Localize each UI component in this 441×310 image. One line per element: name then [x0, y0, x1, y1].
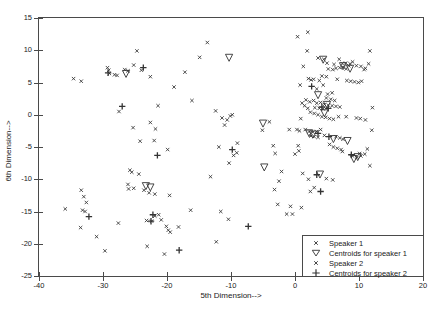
- speaker-point-marker: [297, 149, 300, 152]
- x-axis-tick-label: -40: [34, 282, 45, 290]
- x-axis-tick-label: 0: [293, 282, 297, 290]
- speaker-point-marker: [280, 170, 283, 173]
- speaker-point-marker: [304, 98, 307, 101]
- centroid-plus-marker: [308, 83, 314, 89]
- centroid-plus-marker: [119, 103, 125, 109]
- legend-item: Centroids for speaker 2: [303, 269, 423, 279]
- centroid-triangle-marker: [259, 120, 266, 127]
- speaker-point-marker: [362, 68, 365, 71]
- series-group: [64, 41, 316, 256]
- speaker-point-marker: [360, 80, 363, 83]
- speaker-point-marker: [80, 80, 83, 83]
- speaker-point-marker: [334, 105, 337, 108]
- y-axis-tick-label: -20: [21, 240, 32, 248]
- speaker-point-marker: [227, 218, 230, 221]
- y-axis-tick: [39, 212, 43, 213]
- speaker-point-marker: [214, 109, 217, 112]
- speaker-point-marker: [297, 144, 300, 147]
- speaker-point-marker: [219, 210, 222, 213]
- speaker-point-marker: [325, 177, 328, 180]
- speaker-point-marker: [272, 144, 275, 147]
- speaker-point-marker: [336, 78, 339, 81]
- speaker-point-marker: [332, 145, 335, 148]
- speaker-point-marker: [132, 187, 135, 190]
- speaker-point-marker: [366, 147, 369, 150]
- speaker-point-marker: [355, 116, 358, 119]
- speaker-point-marker: [315, 101, 318, 104]
- centroid-triangle-marker: [344, 137, 351, 144]
- x-axis-tick-label: 20: [419, 282, 427, 290]
- speaker-point-marker: [273, 188, 276, 191]
- speaker-point-marker: [313, 106, 316, 109]
- speaker-point-marker: [355, 64, 358, 67]
- centroid-triangle-marker: [225, 54, 232, 61]
- x-axis-label: 5th Dimension-->: [38, 292, 424, 300]
- series-group: [86, 64, 355, 253]
- y-axis-tick: [39, 179, 43, 180]
- speaker-point-marker: [209, 175, 212, 178]
- speaker-point-marker: [312, 78, 315, 81]
- speaker-point-marker: [117, 221, 120, 224]
- speaker-point-marker: [64, 207, 67, 210]
- legend-marker-triangle-down-icon: [303, 249, 329, 259]
- speaker-point-marker: [190, 99, 193, 102]
- centroid-plus-marker: [245, 223, 251, 229]
- legend-marker-x-small-icon: [303, 259, 329, 269]
- speaker-point-marker: [198, 56, 201, 59]
- speaker-point-marker: [336, 147, 339, 150]
- speaker-point-marker: [315, 87, 318, 90]
- speaker-point-marker: [337, 58, 340, 61]
- speaker-point-marker: [276, 203, 279, 206]
- speaker-point-marker: [225, 118, 228, 121]
- legend-marker-x-small-icon: [303, 239, 329, 249]
- speaker-point-marker: [364, 118, 367, 121]
- series-group: [305, 56, 361, 178]
- speaker-point-marker: [288, 128, 291, 131]
- x-axis-tick: [167, 272, 168, 276]
- centroid-triangle-marker: [346, 65, 353, 72]
- y-axis-tick: [39, 83, 43, 84]
- speaker-point-marker: [293, 152, 296, 155]
- speaker-point-marker: [368, 164, 371, 167]
- speaker-point-marker: [157, 213, 160, 216]
- speaker-point-marker: [313, 112, 316, 115]
- speaker-point-marker: [80, 189, 83, 192]
- speaker-point-marker: [137, 172, 140, 175]
- speaker-point-marker: [325, 75, 328, 78]
- x-axis-tick-label: 10: [355, 282, 363, 290]
- centroid-plus-marker: [229, 146, 235, 152]
- speaker-point-marker: [329, 98, 332, 101]
- speaker-point-marker: [307, 178, 310, 181]
- speaker-point-marker: [353, 80, 356, 83]
- speaker-point-marker: [145, 219, 148, 222]
- y-axis-tick-label: 15: [24, 14, 32, 22]
- speaker-point-marker: [273, 152, 276, 155]
- y-axis-tick-label: -25: [21, 272, 32, 280]
- scatter-plot-figure: -25-20-15-10-5051015-40-30-20-1001020 5t…: [0, 0, 441, 310]
- speaker-point-marker: [338, 136, 341, 139]
- speaker-point-marker: [327, 67, 330, 70]
- speaker-point-marker: [316, 113, 319, 116]
- series-group: [288, 30, 375, 215]
- speaker-point-marker: [206, 41, 209, 44]
- speaker-point-marker: [169, 230, 172, 233]
- x-axis-tick: [295, 272, 296, 276]
- speaker-point-marker: [298, 83, 301, 86]
- speaker-point-marker: [371, 106, 374, 109]
- speaker-point-marker: [166, 148, 169, 151]
- speaker-point-marker: [132, 63, 135, 66]
- speaker-point-marker: [220, 116, 223, 119]
- speaker-point-marker: [160, 218, 163, 221]
- speaker-point-marker: [305, 49, 308, 52]
- speaker-point-marker: [103, 249, 106, 252]
- legend-item: Centroids for speaker 1: [303, 249, 423, 259]
- speaker-point-marker: [312, 99, 315, 102]
- speaker-point-marker: [370, 129, 373, 132]
- speaker-point-marker: [126, 183, 129, 186]
- speaker-point-marker: [308, 100, 311, 103]
- legend-box: Speaker 1 Centroids for speaker 1 Speake…: [302, 235, 424, 277]
- y-axis-tick: [39, 244, 43, 245]
- speaker-point-marker: [326, 92, 329, 95]
- speaker-point-marker: [325, 96, 328, 99]
- speaker-point-marker: [313, 186, 316, 189]
